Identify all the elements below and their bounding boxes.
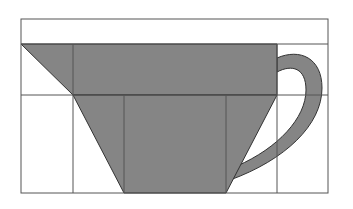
cup-diagram <box>0 0 353 209</box>
